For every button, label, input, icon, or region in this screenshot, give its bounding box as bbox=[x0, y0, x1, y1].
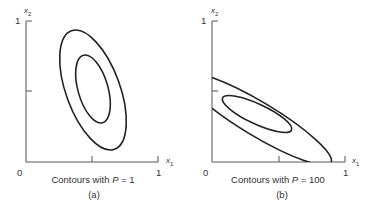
panel-b-contours bbox=[176, 61, 339, 178]
x-axis-label-a: x1 bbox=[166, 156, 173, 167]
y-axis-label-b: x2 bbox=[211, 6, 218, 17]
origin-label-a: 0 bbox=[17, 167, 22, 178]
x-end-label-b: 1 bbox=[343, 167, 348, 178]
y-end-label-b: 1 bbox=[201, 15, 206, 26]
outer-contour-a bbox=[46, 22, 140, 159]
caption-a: Contours with P = 1 bbox=[40, 174, 146, 185]
sublabel-b: (b) bbox=[271, 189, 293, 200]
inner-contour-b bbox=[218, 89, 295, 139]
x-end-label-a: 1 bbox=[156, 167, 161, 178]
caption-b: Contours with P = 100 bbox=[220, 174, 336, 185]
y-end-label-a: 1 bbox=[15, 15, 20, 26]
sublabel-a: (a) bbox=[83, 189, 105, 200]
origin-label-b: 0 bbox=[203, 167, 208, 178]
x-axis-label-b: x1 bbox=[352, 156, 359, 167]
panel-b-axes bbox=[212, 21, 345, 162]
y-axis-label-a: x2 bbox=[24, 6, 31, 17]
panel-a-contours bbox=[46, 22, 140, 159]
outer-contour-b bbox=[176, 61, 339, 178]
